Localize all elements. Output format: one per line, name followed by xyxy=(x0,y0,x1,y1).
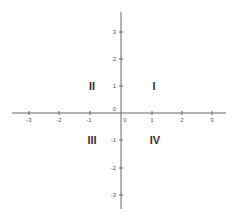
quadrant-label-III: III xyxy=(87,134,96,146)
x-tick-label: 3 xyxy=(210,117,214,123)
quadrant-label-I: I xyxy=(152,80,155,92)
quadrant-label-IV: IV xyxy=(150,134,161,146)
y-tick-label: 1 xyxy=(113,83,117,89)
origin-label-y: 0 xyxy=(113,106,117,112)
x-tick-label: 2 xyxy=(180,117,184,123)
y-tick-label: -1 xyxy=(111,137,117,143)
x-tick-label: -1 xyxy=(86,117,92,123)
coordinate-plane: -3 -2 -1 1 2 3 3 2 1 -1 -2 -3 0 0 I II I… xyxy=(0,0,236,219)
quadrant-label-II: II xyxy=(89,80,95,92)
y-tick-label: 3 xyxy=(113,29,117,35)
y-tick-label: 2 xyxy=(113,56,117,62)
x-tick-label: 1 xyxy=(150,117,154,123)
x-tick-label: -3 xyxy=(26,117,32,123)
x-tick-label: -2 xyxy=(56,117,62,123)
y-tick-label: -2 xyxy=(111,165,117,171)
y-tick-label: -3 xyxy=(111,192,117,198)
origin-label-x: 0 xyxy=(123,117,127,123)
